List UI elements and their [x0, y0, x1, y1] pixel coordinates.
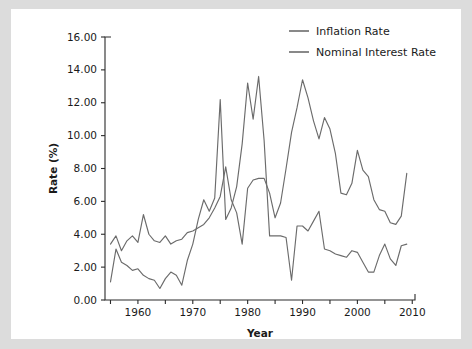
y-axis-ticks	[101, 37, 105, 300]
y-tick-label: 10.00	[67, 129, 97, 141]
figure-frame: 0.002.004.006.008.0010.0012.0014.0016.00…	[0, 0, 472, 349]
x-tick-label: 1980	[234, 306, 261, 318]
y-tick-label: 14.00	[67, 63, 97, 75]
x-axis-ticks	[110, 300, 412, 304]
y-axis-tick-labels: 0.002.004.006.008.0010.0012.0014.0016.00	[67, 31, 97, 306]
y-tick-label: 4.00	[74, 228, 97, 240]
y-tick-label: 2.00	[74, 261, 97, 273]
x-tick-label: 1960	[125, 306, 152, 318]
y-tick-label: 6.00	[74, 195, 97, 207]
legend-label: Inflation Rate	[316, 25, 390, 38]
line-chart: 0.002.004.006.008.0010.0012.0014.0016.00…	[11, 9, 461, 339]
x-tick-label: 2000	[344, 306, 371, 318]
series-line	[110, 76, 406, 288]
x-axis-tick-labels: 196019701980199020002010	[125, 306, 426, 318]
y-tick-label: 8.00	[74, 162, 97, 174]
series-group	[110, 76, 406, 288]
axes-group: 0.002.004.006.008.0010.0012.0014.0016.00…	[67, 31, 426, 318]
y-tick-label: 0.00	[74, 294, 97, 306]
series-line	[110, 80, 406, 251]
x-tick-label: 2010	[399, 306, 426, 318]
chart-svg: 0.002.004.006.008.0010.0012.0014.0016.00…	[11, 9, 461, 339]
legend-label: Nominal Interest Rate	[316, 46, 436, 59]
chart-legend: Inflation RateNominal Interest Rate	[289, 25, 436, 59]
axis-spine	[105, 37, 415, 300]
y-axis-title: Rate (%)	[47, 143, 59, 194]
y-tick-label: 12.00	[67, 96, 97, 108]
y-tick-label: 16.00	[67, 31, 97, 43]
x-tick-label: 1970	[179, 306, 206, 318]
figure-page: 0.002.004.006.008.0010.0012.0014.0016.00…	[11, 9, 461, 339]
x-tick-label: 1990	[289, 306, 316, 318]
x-axis-title: Year	[246, 327, 274, 339]
